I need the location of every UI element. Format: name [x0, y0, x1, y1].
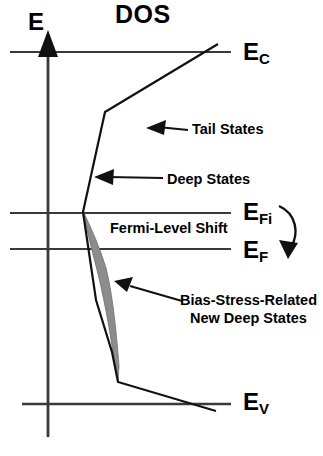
annotation-fermi-level-shift: Fermi-Level Shift	[110, 221, 228, 236]
deep-states-leader-line	[108, 177, 163, 178]
bias-stress-arrowhead-icon	[114, 277, 133, 292]
bias-stress-leader-line	[130, 286, 182, 301]
label-valence-band-edge: EV	[243, 390, 269, 414]
label-ec-subscript: C	[259, 50, 270, 67]
chart-title: DOS	[115, 2, 171, 27]
label-ef-base: E	[243, 236, 259, 263]
label-shifted-fermi-level: EF	[243, 238, 268, 262]
annotation-bias-stress-line2: New Deep States	[190, 311, 307, 326]
annotation-deep-states: Deep States	[167, 172, 250, 187]
y-axis-label: E	[28, 10, 44, 34]
annotation-bias-stress-line1: Bias-Stress-Related	[180, 293, 317, 308]
deep-states-arrowhead-icon	[94, 169, 114, 185]
label-ec-base: E	[243, 38, 259, 65]
label-efi-subscript: Fi	[259, 210, 272, 227]
tail-states-arrowhead-icon	[146, 120, 166, 135]
annotation-tail-states: Tail States	[192, 122, 263, 137]
label-ev-base: E	[243, 388, 259, 415]
label-conduction-band-edge: EC	[243, 40, 270, 64]
label-ef-subscript: F	[259, 248, 268, 265]
label-initial-fermi-level: EFi	[243, 200, 272, 224]
label-efi-base: E	[243, 198, 259, 225]
fermi-shift-arrowhead-icon	[279, 240, 298, 259]
label-ev-subscript: V	[259, 400, 269, 417]
dos-band-diagram: DOS E EC EFi EF EV Tail States Deep Stat…	[0, 0, 323, 456]
